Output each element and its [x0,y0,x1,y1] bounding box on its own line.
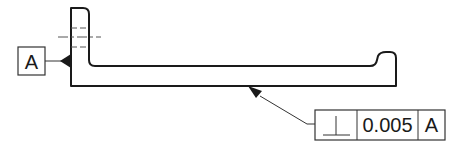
datum-triangle-icon [60,54,71,68]
fcf-tolerance: 0.005 [362,114,412,136]
part-outline [71,8,396,86]
datum-a-letter: A [25,51,39,73]
feature-control-frame: 0.005 A [315,110,445,140]
engineering-drawing: A 0.005 A [0,0,460,148]
fcf-datum-ref: A [425,114,439,136]
fcf-leader [260,96,315,124]
